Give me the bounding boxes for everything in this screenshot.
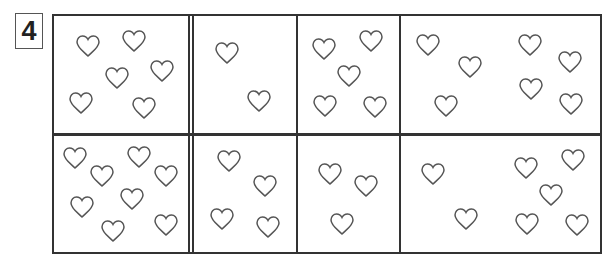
heart-icon — [433, 94, 459, 118]
heart-icon — [317, 162, 343, 186]
heart-icon — [560, 148, 586, 172]
heart-icon — [420, 162, 446, 186]
heart-icon — [75, 34, 101, 58]
heart-icon — [557, 50, 583, 74]
heart-icon — [216, 149, 242, 173]
heart-icon — [69, 195, 95, 219]
heart-icon — [311, 37, 337, 61]
grid-divider — [54, 133, 600, 136]
heart-icon — [149, 59, 175, 83]
heart-icon — [68, 91, 94, 115]
heart-icon — [153, 164, 179, 188]
heart-icon — [62, 146, 88, 170]
heart-icon — [246, 89, 272, 113]
heart-icon — [353, 174, 379, 198]
heart-icon — [538, 183, 564, 207]
heart-icon — [336, 64, 362, 88]
heart-icon — [214, 41, 240, 65]
heart-icon — [255, 215, 281, 239]
heart-icon — [121, 29, 147, 53]
heart-icon — [100, 219, 126, 243]
heart-icon — [131, 96, 157, 120]
heart-icon — [89, 164, 115, 188]
puzzle-number-label: 4 — [15, 13, 43, 49]
heart-icon — [312, 94, 338, 118]
heart-icon — [558, 92, 584, 116]
heart-icon — [126, 145, 152, 169]
heart-icon — [104, 66, 130, 90]
heart-icon — [514, 212, 540, 236]
heart-icon — [453, 207, 479, 231]
heart-icon — [209, 207, 235, 231]
heart-icon — [415, 33, 441, 57]
heart-icon — [564, 213, 590, 237]
heart-icon — [358, 29, 384, 53]
heart-icon — [517, 33, 543, 57]
heart-icon — [513, 156, 539, 180]
heart-icon — [362, 95, 388, 119]
heart-icon — [457, 55, 483, 79]
heart-icon — [119, 187, 145, 211]
heart-icon — [153, 213, 179, 237]
heart-icon — [252, 174, 278, 198]
heart-icon — [329, 212, 355, 236]
heart-icon — [518, 77, 544, 101]
